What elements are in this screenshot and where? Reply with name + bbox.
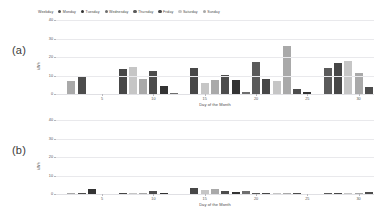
x-tick-label: 20 <box>254 97 258 101</box>
x-tick-label: 10 <box>151 97 155 101</box>
bar <box>221 75 229 94</box>
panel-a-y-axis-label: kWh <box>37 62 41 70</box>
y-tick-mark <box>54 57 56 58</box>
y-tick-label: 30 <box>49 137 53 141</box>
x-tick-label: 30 <box>356 97 360 101</box>
panel-a-x-axis-label: Day of the Month <box>56 102 374 107</box>
bar <box>232 80 240 94</box>
legend-item-tuesday[interactable]: Tuesday <box>81 10 100 14</box>
y-tick-label: 10 <box>49 174 53 178</box>
y-tick-mark <box>54 120 56 121</box>
bar <box>190 68 198 94</box>
y-tick-label: 20 <box>49 55 53 59</box>
legend-item-saturday[interactable]: Saturday <box>178 10 197 14</box>
legend-swatch-icon <box>158 10 161 13</box>
x-tick-label: 15 <box>203 97 207 101</box>
panel-b: (b) kWh 010203040 Day of the Month 51015… <box>0 118 380 222</box>
panel-a-plot-area: 010203040 <box>56 20 374 94</box>
legend-swatch-icon <box>203 10 206 13</box>
y-tick-label: 20 <box>49 155 53 159</box>
y-tick-mark <box>54 176 56 177</box>
chart-legend: Weekday MondayTuesdayWednesdayThursdayFr… <box>38 7 220 16</box>
x-tick-label: 30 <box>356 197 360 201</box>
y-tick-mark <box>54 20 56 21</box>
panel-b-x-axis: Day of the Month 51015202530 <box>56 194 374 206</box>
legend-item-thursday[interactable]: Thursday <box>133 10 153 14</box>
bar <box>334 63 342 94</box>
y-tick-mark <box>54 76 56 77</box>
legend-item-label: Monday <box>63 10 76 14</box>
bar <box>344 61 352 94</box>
legend-swatch-icon <box>133 10 136 13</box>
legend-item-label: Sunday <box>207 10 220 14</box>
y-tick-mark <box>54 139 56 140</box>
bar <box>78 76 86 94</box>
panel-a-x-axis: Day of the Month 51015202530 <box>56 94 374 106</box>
gridline <box>56 57 374 58</box>
y-tick-mark <box>54 157 56 158</box>
x-tick-label: 10 <box>151 197 155 201</box>
legend-item-friday[interactable]: Friday <box>158 10 173 14</box>
legend-item-label: Tuesday <box>86 10 100 14</box>
y-tick-label: 10 <box>49 74 53 78</box>
x-tick-label: 25 <box>305 97 309 101</box>
bar <box>211 80 219 94</box>
panel-b-x-axis-label: Day of the Month <box>56 202 374 207</box>
legend-swatch-icon <box>105 10 108 13</box>
gridline <box>56 76 374 77</box>
gridline <box>56 39 374 40</box>
panel-b-plot-area: 010203040 <box>56 120 374 194</box>
bar <box>283 46 291 94</box>
legend-swatch-icon <box>81 10 84 13</box>
gridline <box>56 120 374 121</box>
gridline <box>56 157 374 158</box>
y-tick-label: 0 <box>51 192 53 196</box>
bar <box>67 81 75 94</box>
legend-item-label: Wednesday <box>109 10 128 14</box>
bar <box>355 73 363 94</box>
legend-item-label: Thursday <box>138 10 153 14</box>
panel-b-y-axis-label: kWh <box>37 162 41 170</box>
legend-item-label: Saturday <box>183 10 198 14</box>
gridline <box>56 20 374 21</box>
bar <box>252 62 260 94</box>
bar <box>119 69 127 94</box>
panel-a-letter: (a) <box>12 44 26 56</box>
bar <box>139 79 147 94</box>
bar <box>201 83 209 94</box>
y-tick-label: 0 <box>51 92 53 96</box>
y-tick-label: 30 <box>49 37 53 41</box>
bar <box>324 68 332 94</box>
legend-swatch-icon <box>58 10 61 13</box>
legend-title: Weekday <box>38 10 53 14</box>
legend-item-list: MondayTuesdayWednesdayThursdayFridaySatu… <box>58 10 220 14</box>
legend-item-sunday[interactable]: Sunday <box>203 10 220 14</box>
y-tick-label: 40 <box>49 18 53 22</box>
y-tick-label: 40 <box>49 118 53 122</box>
bar <box>365 87 373 94</box>
legend-item-label: Friday <box>163 10 173 14</box>
bar <box>129 67 137 94</box>
bar <box>273 81 281 94</box>
x-tick-label: 20 <box>254 197 258 201</box>
figure-two-panel-bar-chart: Weekday MondayTuesdayWednesdayThursdayFr… <box>0 0 380 222</box>
gridline <box>56 176 374 177</box>
legend-swatch-icon <box>178 10 181 13</box>
x-tick-label: 25 <box>305 197 309 201</box>
panel-a: (a) kWh 010203040 Day of the Month 51015… <box>0 16 380 111</box>
legend-item-monday[interactable]: Monday <box>58 10 76 14</box>
x-tick-label: 5 <box>101 197 103 201</box>
panel-b-letter: (b) <box>12 144 26 156</box>
bar <box>160 86 168 94</box>
x-tick-label: 15 <box>203 197 207 201</box>
gridline <box>56 139 374 140</box>
bar <box>262 79 270 94</box>
x-tick-label: 5 <box>101 97 103 101</box>
y-tick-mark <box>54 39 56 40</box>
legend-item-wednesday[interactable]: Wednesday <box>105 10 129 14</box>
